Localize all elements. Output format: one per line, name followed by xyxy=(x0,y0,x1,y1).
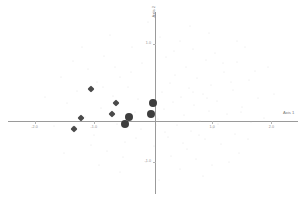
scatter-plot: Axis 1 Axis 2 -2.0-1.01.02.01.0-1.0 xyxy=(0,0,306,207)
y-tick-mark xyxy=(153,162,156,163)
background-data-point xyxy=(205,139,206,140)
background-data-point xyxy=(250,121,251,122)
background-data-point xyxy=(167,137,168,138)
background-data-point xyxy=(53,126,54,127)
x-tick-mark xyxy=(35,121,36,124)
background-data-point xyxy=(199,135,200,136)
background-data-point xyxy=(81,47,82,48)
background-data-point xyxy=(155,70,156,71)
background-data-point xyxy=(114,66,115,67)
background-data-point xyxy=(237,41,238,42)
background-data-point xyxy=(232,90,233,91)
x-tick-label: -1.0 xyxy=(91,126,98,130)
background-data-point xyxy=(132,47,133,48)
background-data-point xyxy=(90,145,91,146)
background-data-point xyxy=(148,21,149,22)
background-data-point xyxy=(128,86,129,87)
background-data-point xyxy=(154,146,155,147)
background-data-point xyxy=(197,78,198,79)
background-data-point xyxy=(218,123,219,124)
x-tick-label: -2.0 xyxy=(31,126,38,130)
background-data-point xyxy=(188,88,189,89)
background-data-point xyxy=(194,104,195,105)
background-data-point xyxy=(191,131,192,132)
background-data-point xyxy=(163,109,164,110)
background-data-point xyxy=(238,153,239,154)
background-data-point xyxy=(142,63,143,64)
background-data-point xyxy=(138,99,139,100)
background-data-point xyxy=(207,98,208,99)
background-data-point xyxy=(160,37,161,38)
background-data-point xyxy=(120,76,121,77)
background-data-point xyxy=(244,47,245,48)
background-data-point xyxy=(112,95,113,96)
background-data-point xyxy=(189,25,190,26)
background-data-point xyxy=(181,97,182,98)
background-data-point xyxy=(141,129,142,130)
background-data-point xyxy=(274,94,275,95)
background-data-point xyxy=(117,123,118,124)
background-data-point xyxy=(200,120,201,121)
background-data-point xyxy=(100,107,101,108)
diamond-data-point xyxy=(87,85,94,92)
background-data-point xyxy=(187,148,188,149)
background-data-point xyxy=(241,106,242,107)
circle-data-point xyxy=(147,110,155,118)
background-data-point xyxy=(123,157,124,158)
background-data-point xyxy=(77,91,78,92)
background-data-point xyxy=(87,68,88,69)
background-data-point xyxy=(67,103,68,104)
background-data-point xyxy=(110,35,111,36)
background-data-point xyxy=(209,32,210,33)
background-data-point xyxy=(175,74,176,75)
background-data-point xyxy=(124,141,125,142)
background-data-point xyxy=(237,61,238,62)
x-tick-label: 2.0 xyxy=(269,126,274,130)
background-data-point xyxy=(120,172,121,173)
background-data-point xyxy=(254,70,255,71)
background-data-point xyxy=(170,155,171,156)
x-axis-title: Axis 1 xyxy=(283,111,294,115)
background-data-point xyxy=(61,76,62,77)
background-data-point xyxy=(93,135,94,136)
background-data-point xyxy=(173,51,174,52)
background-data-point xyxy=(222,63,223,64)
circle-data-point xyxy=(125,113,133,121)
background-data-point xyxy=(166,57,167,58)
x-tick-mark xyxy=(212,121,213,124)
background-data-point xyxy=(224,72,225,73)
x-tick-mark xyxy=(94,121,95,124)
background-data-point xyxy=(240,111,241,112)
background-data-point xyxy=(228,161,229,162)
background-data-point xyxy=(212,164,213,165)
x-tick-label: 1.0 xyxy=(210,126,215,130)
diamond-data-point xyxy=(71,126,78,133)
background-data-point xyxy=(84,117,85,118)
background-data-point xyxy=(135,112,136,113)
background-data-point xyxy=(98,164,99,165)
background-data-point xyxy=(96,81,97,82)
background-data-point xyxy=(169,83,170,84)
y-tick-mark xyxy=(153,44,156,45)
background-data-point xyxy=(179,41,180,42)
background-data-point xyxy=(221,144,222,145)
background-data-point xyxy=(172,101,173,102)
background-data-point xyxy=(183,115,184,116)
background-data-point xyxy=(157,118,158,119)
background-data-point xyxy=(136,138,137,139)
diamond-data-point xyxy=(108,111,115,118)
circle-data-point xyxy=(149,99,157,107)
background-data-point xyxy=(215,52,216,53)
background-data-point xyxy=(185,66,186,67)
x-axis-line xyxy=(8,121,298,122)
background-data-point xyxy=(206,59,207,60)
background-data-point xyxy=(193,92,194,93)
background-data-point xyxy=(226,113,227,114)
y-axis-title: Axis 2 xyxy=(152,6,156,17)
y-tick-label: 1.0 xyxy=(139,42,151,46)
background-data-point xyxy=(234,133,235,134)
background-data-point xyxy=(231,82,232,83)
background-data-point xyxy=(164,132,165,133)
background-data-point xyxy=(104,56,105,57)
background-data-point xyxy=(203,176,204,177)
